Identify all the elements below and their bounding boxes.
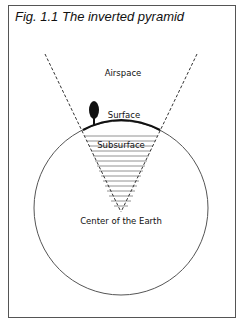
label-subsurface: Subsurface (97, 140, 145, 150)
label-surface: Surface (108, 110, 140, 120)
tree-icon (89, 101, 99, 125)
label-center-of-earth: Center of the Earth (80, 216, 162, 226)
inverted-pyramid-diagram: Airspace Surface Subsurface Center of th… (0, 0, 242, 324)
label-airspace: Airspace (105, 68, 142, 78)
